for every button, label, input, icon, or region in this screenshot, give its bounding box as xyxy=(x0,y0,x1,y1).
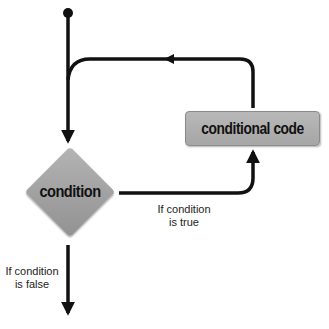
false-branch-label-line2: is false xyxy=(2,278,62,291)
condition-node: condition xyxy=(25,147,115,237)
false-branch-label: If condition is false xyxy=(2,265,62,291)
true-branch-label-line2: is true xyxy=(144,216,224,229)
loop-back-arrowhead-icon xyxy=(164,54,174,64)
loop-back-arrow xyxy=(68,59,253,108)
flowchart-canvas: condition conditional code If condition … xyxy=(0,0,329,329)
conditional-code-label: conditional code xyxy=(201,120,303,138)
true-branch-label-line1: If condition xyxy=(144,203,224,216)
conditional-code-node: conditional code xyxy=(185,111,320,146)
true-branch-label: If condition is true xyxy=(144,203,224,229)
condition-label: condition xyxy=(31,147,108,237)
false-branch-label-line1: If condition xyxy=(2,265,62,278)
true-branch-arrow xyxy=(119,152,253,193)
